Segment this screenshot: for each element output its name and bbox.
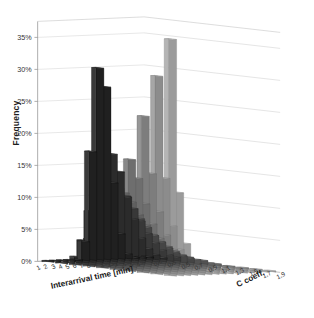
bars-group xyxy=(42,39,276,277)
tick-marks xyxy=(34,37,37,261)
y-tick-label: 35% xyxy=(6,33,32,42)
y-tick-label: 0% xyxy=(6,257,32,266)
y-tick-label: 5% xyxy=(6,225,32,234)
y-tick-label: 20% xyxy=(6,129,32,138)
y-tick-label: 30% xyxy=(6,65,32,74)
y-tick-label: 10% xyxy=(6,193,32,202)
chart-figure: Frequency 0%5%10%15%20%25%30%35% 1234567… xyxy=(0,0,314,318)
y-axis-title: Frequency xyxy=(11,83,21,163)
y-tick-label: 25% xyxy=(6,97,32,106)
bar xyxy=(77,241,89,261)
y-tick-label: 15% xyxy=(6,161,32,170)
